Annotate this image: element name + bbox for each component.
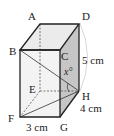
cuboid-diagram: A D B C E H F G 5 cm 4 cm 3 cm x° — [0, 0, 114, 136]
vertex-label-h: H — [82, 90, 90, 102]
vertex-label-c: C — [61, 50, 68, 62]
vertex-label-d: D — [82, 10, 90, 22]
vertex-label-a: A — [28, 10, 36, 22]
vertex-label-g: G — [60, 121, 68, 133]
vertex-label-e: E — [29, 83, 36, 95]
vertex-label-f: F — [8, 112, 14, 124]
height-label: 5 cm — [82, 54, 104, 66]
angle-label: x° — [63, 66, 72, 77]
width-label: 3 cm — [26, 121, 48, 133]
depth-label: 4 cm — [80, 102, 102, 114]
vertex-label-b: B — [9, 45, 16, 57]
